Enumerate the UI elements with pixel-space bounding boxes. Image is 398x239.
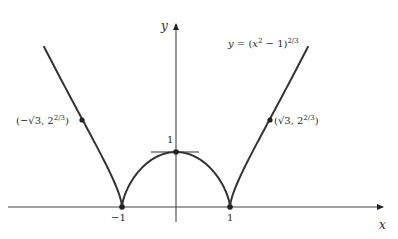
equation-label: y = (x2 − 1)2/3 (228, 38, 299, 49)
tick-label-one-x: 1 (227, 213, 233, 223)
function-graph: y x −1 1 1 y = (x2 − 1)2/3 (−√3, 22/3) (… (0, 0, 398, 239)
point-label-right-close: ) (315, 115, 319, 126)
point-label-left-open: (−√3, 2 (16, 115, 54, 126)
point-label-right-open: (√3, 2 (274, 115, 303, 126)
y-axis-label: y (161, 20, 168, 32)
point-max-y-one (173, 149, 179, 155)
equation-eq: = ( (234, 38, 253, 49)
x-axis-label: x (379, 219, 386, 231)
tick-label-one-y: 1 (167, 135, 173, 145)
point-label-left-close: ) (65, 115, 69, 126)
equation-rest: − 1) (262, 38, 287, 49)
point-label-right: (√3, 22/3) (274, 115, 319, 126)
equation-exponent: 2/3 (287, 37, 298, 45)
point-label-left: (−√3, 22/3) (16, 115, 69, 126)
point-right-sqrt3 (267, 117, 272, 122)
point-cusp-one (227, 204, 233, 210)
tick-label-neg-one: −1 (111, 213, 126, 223)
point-label-left-exp: 2/3 (54, 114, 65, 122)
point-left-sqrt3 (79, 117, 84, 122)
point-cusp-neg-one (119, 204, 125, 210)
point-label-right-exp: 2/3 (303, 114, 314, 122)
